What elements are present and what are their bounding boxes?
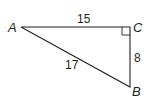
side-label-cb: 8 — [134, 51, 141, 65]
triangle-abc — [21, 27, 130, 87]
side-label-ab: 17 — [65, 58, 79, 72]
right-triangle-diagram: A C B 15 8 17 — [0, 0, 144, 106]
vertex-label-c: C — [133, 20, 143, 35]
right-angle-marker — [122, 27, 130, 35]
side-label-ac: 15 — [77, 12, 91, 26]
vertex-label-a: A — [7, 20, 17, 35]
vertex-label-b: B — [132, 84, 141, 99]
